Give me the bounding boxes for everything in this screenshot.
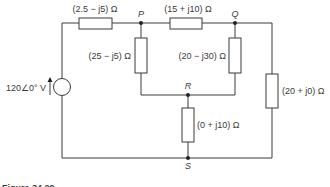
node-p-dot bbox=[139, 21, 143, 25]
label-node-s: S bbox=[185, 161, 191, 171]
label-impedance-pq: (15 + j10) Ω bbox=[164, 4, 212, 14]
label-source: 120∠0° V bbox=[6, 83, 46, 93]
label-node-p: P bbox=[138, 9, 144, 19]
source-arrow-head-icon bbox=[48, 77, 53, 82]
impedance-qs bbox=[266, 74, 278, 108]
label-impedance-qs: (20 + j0) Ω bbox=[282, 86, 325, 96]
impedance-rs bbox=[182, 108, 194, 142]
node-q-dot bbox=[233, 21, 237, 25]
label-node-r: R bbox=[185, 81, 192, 91]
impedance-source-p bbox=[79, 18, 112, 29]
figure-caption: Figure 34.29 bbox=[2, 183, 55, 187]
label-impedance-rs: (0 + j10) Ω bbox=[197, 120, 240, 130]
node-s-dot bbox=[186, 156, 190, 160]
impedance-qr bbox=[229, 38, 241, 73]
impedance-pq bbox=[170, 18, 202, 29]
circuit-diagram: (2.5 − j5) Ω (15 + j10) Ω (25 − j5) Ω (2… bbox=[0, 0, 330, 187]
label-impedance-pr: (25 − j5) Ω bbox=[89, 51, 132, 61]
label-impedance-qr: (20 − j30) Ω bbox=[178, 51, 226, 61]
impedance-pr bbox=[135, 38, 147, 73]
label-impedance-source-p: (2.5 − j5) Ω bbox=[73, 4, 118, 14]
label-node-q: Q bbox=[231, 9, 238, 19]
voltage-source bbox=[48, 77, 71, 96]
node-r-dot bbox=[186, 93, 190, 97]
source-circle-icon bbox=[54, 79, 71, 96]
